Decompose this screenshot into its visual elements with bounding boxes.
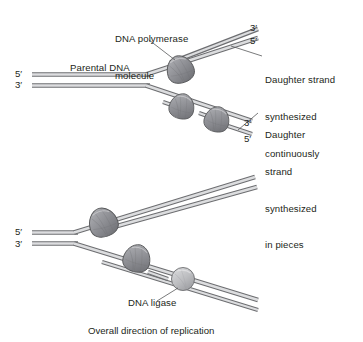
dna-ligase-blob bbox=[172, 268, 195, 291]
dna-polymerase-leading-bottom bbox=[85, 204, 121, 241]
daughter-pieces-line3: synthesized bbox=[265, 203, 317, 215]
prime-label-parental-lower-bottom: 3′ bbox=[15, 238, 22, 249]
dna-replication-figure: DNA polymerase molecule Parental DNA Dau… bbox=[0, 0, 363, 342]
prime-label-lagging-lower-top: 5′ bbox=[244, 133, 251, 144]
prime-label-leading-lower-top: 5′ bbox=[250, 35, 257, 46]
dna-polymerase-label-line1: DNA polymerase bbox=[115, 33, 188, 45]
prime-label-leading-upper-top: 3′ bbox=[250, 22, 257, 33]
prime-label-parental-lower-top: 3′ bbox=[15, 79, 22, 90]
prime-label-lagging-upper-top: 3′ bbox=[244, 117, 251, 128]
parental-dna-strands-bottom bbox=[32, 233, 78, 244]
figure-caption: Overall direction of replication bbox=[88, 325, 214, 336]
daughter-pieces-line1: Daughter bbox=[265, 129, 317, 141]
dna-ligase-label: DNA ligase bbox=[128, 297, 176, 309]
daughter-pieces-line4: in pieces bbox=[265, 239, 317, 251]
dna-polymerase-lagging-2-top bbox=[202, 104, 232, 135]
bottom-panel bbox=[32, 177, 258, 310]
daughter-continuous-line1: Daughter strand bbox=[265, 74, 335, 86]
parental-dna-label: Parental DNA bbox=[70, 62, 130, 74]
prime-label-parental-upper-bottom: 5′ bbox=[15, 226, 22, 237]
daughter-strand-pieces-label: Daughter strand synthesized in pieces bbox=[265, 105, 317, 276]
dna-polymerase-label: DNA polymerase molecule bbox=[115, 9, 188, 107]
prime-label-parental-upper-top: 5′ bbox=[15, 68, 22, 79]
daughter-pieces-line2: strand bbox=[265, 166, 317, 178]
